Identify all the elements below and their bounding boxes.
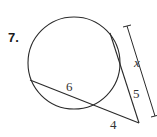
label-5: 5 [133,86,140,101]
label-x: x [133,55,140,70]
length-bracket [127,26,155,116]
bracket-tick-bottom [151,115,157,117]
label-4: 4 [110,117,117,132]
circle [28,17,120,109]
geometry-diagram: 6 4 5 x [0,0,157,137]
secant-lower [30,80,139,123]
secant-upper [110,33,139,123]
figure: 7. 6 4 5 x [0,0,157,137]
label-6: 6 [66,79,73,94]
